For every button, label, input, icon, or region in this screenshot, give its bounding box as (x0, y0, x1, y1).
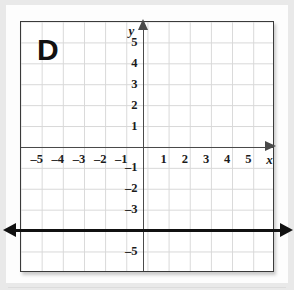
x-tick-label: 4 (216, 153, 238, 166)
y-tick-label: 1 (116, 120, 138, 133)
y-tick-label: –1 (116, 161, 138, 174)
x-tick-label: –4 (47, 153, 69, 166)
x-tick-label: –2 (89, 153, 111, 166)
line-right-arrow-icon (280, 223, 293, 237)
graphed-line-y-equals-negative-4 (9, 229, 287, 232)
y-tick-label: 5 (116, 36, 138, 49)
y-axis (143, 22, 144, 271)
coordinate-plane-figure: D –5–4–3–2–11234554321–1–2–3–5 x y (0, 0, 294, 290)
graph-plot-area: D –5–4–3–2–11234554321–1–2–3–5 x y (20, 21, 274, 272)
x-axis (21, 147, 273, 148)
y-tick-label: 4 (116, 57, 138, 70)
line-left-arrow-icon (3, 223, 16, 237)
x-tick-label: 2 (174, 153, 196, 166)
x-tick-label: 1 (153, 153, 175, 166)
y-tick-label: –5 (116, 245, 138, 258)
x-axis-arrow-icon (265, 141, 276, 151)
y-axis-label: y (129, 24, 135, 37)
page-bottom-rule (8, 287, 286, 288)
x-tick-label: –3 (68, 153, 90, 166)
y-tick-label: 2 (116, 99, 138, 112)
x-axis-label: x (266, 153, 273, 166)
y-axis-arrow-icon (138, 19, 148, 30)
x-tick-label: 5 (237, 153, 259, 166)
panel-label: D (37, 35, 59, 65)
y-tick-label: 3 (116, 78, 138, 91)
x-tick-label: –5 (26, 153, 48, 166)
y-tick-label: –2 (116, 182, 138, 195)
y-tick-label: –3 (116, 203, 138, 216)
x-tick-label: 3 (195, 153, 217, 166)
